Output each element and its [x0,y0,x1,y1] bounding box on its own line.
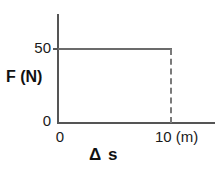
x-tick-label-10: 10 (m) [155,129,215,144]
dashed-drop-line [170,49,172,123]
x-tick-label-0: 0 [53,129,67,144]
force-displacement-chart: 50 0 0 10 (m) F (N) Δ s [0,0,219,173]
y-tick-label-0: 0 [36,113,51,128]
y-axis-title: F (N) [6,68,42,86]
y-axis-line [57,14,59,124]
x-axis-title: Δ s [89,145,118,165]
x-axis-line [57,122,215,124]
force-plateau-line [58,48,172,50]
y-tick-label-50: 50 [26,40,51,55]
